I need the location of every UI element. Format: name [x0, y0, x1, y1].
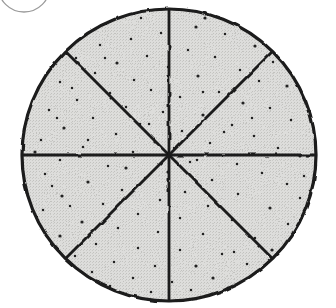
stipple-dot	[285, 84, 288, 87]
stipple-dot	[82, 146, 85, 149]
stipple-dot	[181, 130, 184, 133]
stipple-dot	[130, 38, 133, 41]
stipple-dot	[33, 150, 36, 153]
stipple-dot	[231, 124, 234, 127]
stipple-dot	[132, 277, 135, 280]
stipple-dot	[76, 99, 79, 102]
stipple-dot	[58, 234, 61, 237]
stipple-dot	[86, 180, 89, 183]
stipple-dot	[290, 119, 293, 122]
stipple-dot	[157, 231, 160, 234]
stipple-dot	[237, 193, 240, 196]
stipple-dot	[80, 220, 83, 223]
stipple-dot	[261, 172, 264, 175]
stipple-dot	[221, 253, 224, 256]
stipple-dot	[190, 289, 193, 292]
stipple-dot	[286, 183, 289, 186]
stipple-dot	[233, 251, 236, 254]
stipple-dot	[160, 32, 163, 35]
stipple-dot	[258, 80, 261, 83]
stipple-dot	[253, 135, 256, 138]
stipple-dot	[272, 61, 275, 64]
stipple-dot	[159, 199, 162, 202]
stipple-dot	[148, 123, 151, 126]
stipple-dot	[132, 151, 135, 154]
stipple-dot	[51, 185, 54, 188]
fraction-circle-svg	[0, 0, 336, 308]
stipple-dot	[94, 72, 97, 75]
stipple-dot	[214, 56, 217, 59]
stipple-dot	[62, 126, 65, 129]
stipple-dot	[162, 111, 165, 114]
stipple-dot	[150, 89, 153, 92]
stipple-dot	[303, 175, 306, 178]
stipple-dot	[187, 49, 190, 52]
stipple-dot	[253, 44, 256, 47]
stipple-dot	[224, 33, 227, 36]
stipple-dot	[87, 139, 90, 142]
stipple-dot	[124, 166, 127, 169]
stipple-dot	[56, 117, 59, 120]
stipple-dot	[99, 44, 102, 47]
stipple-dot	[194, 25, 197, 28]
stipple-dot	[146, 55, 149, 58]
stipple-dot	[140, 17, 143, 20]
stipple-dot	[154, 265, 157, 268]
stipple-dot	[211, 276, 214, 279]
stipple-dot	[194, 264, 197, 267]
stipple-dot	[236, 163, 239, 166]
stipple-dot	[179, 249, 182, 252]
stipple-dot	[202, 233, 205, 236]
stipple-dot	[251, 117, 254, 120]
stipple-dot	[117, 227, 120, 230]
stipple-dot	[74, 255, 77, 258]
stipple-dot	[287, 223, 290, 226]
stipple-dot	[207, 205, 210, 208]
stipple-dot	[92, 117, 95, 120]
stipple-dot	[69, 205, 72, 208]
stipple-dot	[179, 217, 182, 220]
stipple-dot	[60, 194, 63, 197]
stipple-dot	[125, 106, 128, 109]
stipple-dot	[223, 131, 226, 134]
stipple-dot	[150, 291, 153, 294]
stipple-dot	[104, 57, 107, 60]
stipple-dot	[75, 57, 78, 60]
stipple-dot	[201, 113, 204, 116]
stipple-dot	[113, 261, 116, 264]
stipple-dot	[196, 159, 199, 162]
stipple-dot	[115, 133, 118, 136]
stipple-dot	[102, 203, 105, 206]
stipple-dot	[277, 147, 280, 150]
stipple-dot	[196, 74, 199, 77]
stipple-dot	[48, 109, 51, 112]
stipple-dot	[209, 142, 212, 145]
stipple-dot	[211, 179, 214, 182]
stipple-dot	[137, 247, 140, 250]
stipple-dot	[59, 81, 62, 84]
stipple-dot	[269, 107, 272, 110]
stipple-dot	[241, 101, 244, 104]
stipple-dot	[202, 91, 205, 94]
stipple-dot	[40, 139, 43, 142]
stipple-dot	[189, 161, 192, 164]
stipple-dot	[239, 69, 242, 72]
stipple-dot	[268, 206, 271, 209]
stipple-dot	[71, 87, 74, 90]
stipple-dot	[137, 213, 140, 216]
stipple-dot	[133, 79, 136, 82]
stipple-dot	[44, 173, 47, 176]
stipple-dot	[203, 16, 206, 19]
figure-container: Hand-drawn circle divided into eight equ…	[0, 0, 336, 308]
stipple-dot	[299, 197, 302, 200]
stipple-dot	[218, 91, 221, 94]
stipple-dot	[95, 243, 98, 246]
stipple-dot	[179, 96, 182, 99]
stipple-dot	[107, 165, 110, 168]
stipple-dot	[171, 281, 174, 284]
stipple-dot	[121, 189, 124, 192]
stipple-dot	[91, 271, 94, 274]
stipple-dot	[115, 61, 118, 64]
stipple-dot	[184, 191, 187, 194]
stipple-dot	[42, 209, 45, 212]
